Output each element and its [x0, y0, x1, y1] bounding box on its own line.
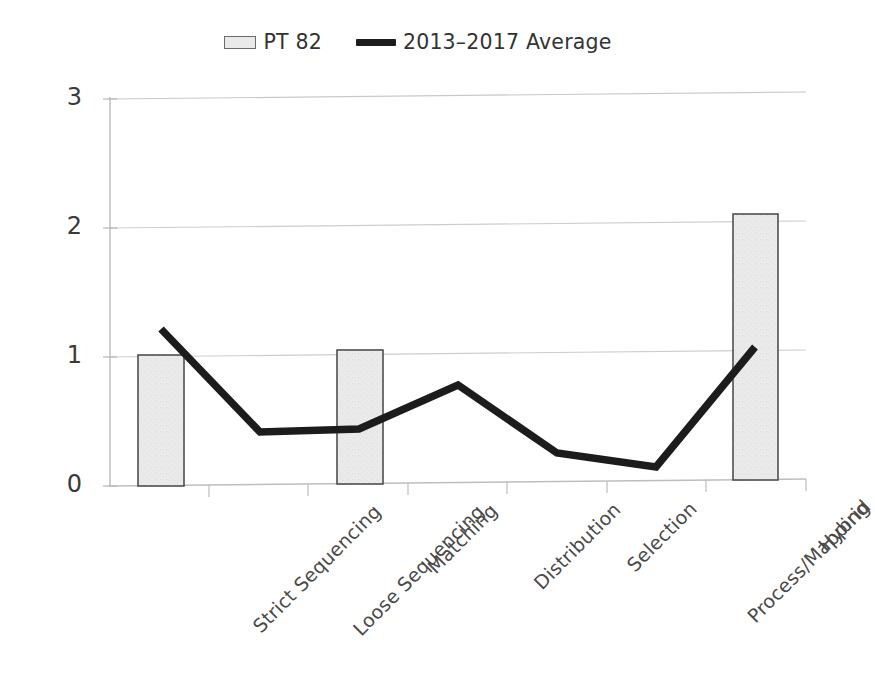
- bar-series: [138, 214, 778, 486]
- bar-matching: [337, 350, 383, 484]
- grid-lines: [110, 92, 806, 357]
- bar-hybrid: [733, 214, 778, 480]
- bar-strict-sequencing: [138, 355, 184, 486]
- y-axis: [103, 97, 117, 487]
- line-series: [161, 329, 755, 467]
- x-axis: [110, 479, 806, 497]
